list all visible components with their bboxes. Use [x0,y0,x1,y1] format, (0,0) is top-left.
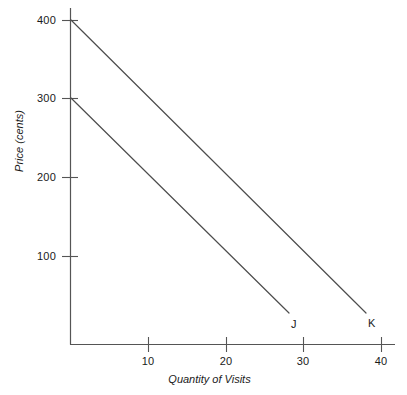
series-label-k: K [368,317,375,329]
x-tick-label-20: 20 [211,355,241,367]
y-tick-label-400: 400 [26,14,56,26]
chart-plot-area [0,0,407,395]
x-tick-label-10: 10 [133,355,163,367]
series-line-k [71,20,366,313]
x-tick-label-40: 40 [366,355,396,367]
chart-container: 400 300 200 100 10 20 30 40 J K Price (c… [0,0,407,395]
series-label-j: J [291,318,297,330]
x-tick-label-30: 30 [288,355,318,367]
series-line-j [71,98,289,313]
y-tick-label-300: 300 [26,92,56,104]
y-axis-title-text: Price (cents) [13,86,25,196]
y-tick-label-200: 200 [26,171,56,183]
y-tick-label-100: 100 [26,250,56,262]
data-series-group [71,20,366,313]
x-axis-title: Quantity of Visits [0,373,407,385]
y-axis-title: Price (cents) [13,132,25,150]
